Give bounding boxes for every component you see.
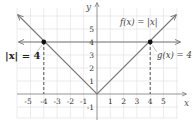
intersection-point-right: [148, 40, 153, 45]
svg-text:4: 4: [89, 38, 94, 47]
x-tick-labels: -5 -4 -3 -2 -1 1 2 3 4 5: [24, 97, 166, 106]
svg-text:-3: -3: [53, 97, 61, 106]
svg-text:-1: -1: [87, 103, 94, 112]
svg-text:-5: -5: [24, 97, 32, 106]
svg-text:1: 1: [89, 77, 94, 86]
svg-text:1: 1: [108, 97, 113, 106]
y-axis-label: y: [85, 2, 92, 12]
x-axis-label: x: [184, 98, 189, 108]
intersection-point-left: [41, 40, 46, 45]
svg-text:3: 3: [89, 51, 94, 60]
equation-label: |x| = 4: [5, 50, 41, 62]
svg-text:-2: -2: [67, 97, 75, 106]
svg-text:4: 4: [148, 97, 153, 106]
svg-text:2: 2: [121, 97, 126, 106]
svg-text:-4: -4: [40, 97, 48, 106]
svg-text:2: 2: [89, 64, 94, 73]
g-label: g(x) = 4: [157, 50, 192, 60]
svg-text:3: 3: [135, 97, 140, 106]
svg-text:5: 5: [161, 97, 166, 106]
svg-text:5: 5: [89, 25, 94, 34]
f-label: f(x) = |x|: [119, 17, 158, 28]
absolute-value-graph: -5 -4 -3 -2 -1 1 2 3 4 5 1 2 3 4 5 -1 x …: [0, 0, 193, 122]
